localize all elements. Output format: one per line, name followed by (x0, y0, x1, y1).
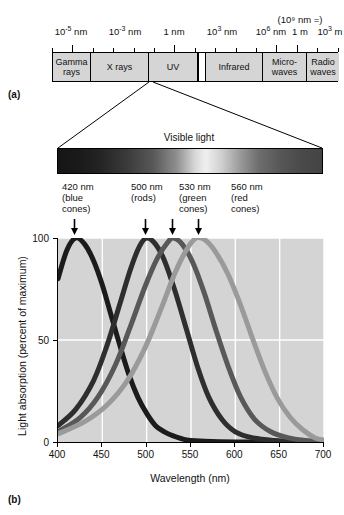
x-tick-mark-600 (234, 443, 235, 447)
x-axis-title: Wavelength (nm) (150, 472, 230, 484)
peak-arrow-green-cones (168, 219, 177, 235)
peak-callout-green-cones-line-3: cones) (179, 203, 211, 214)
peak-callout-blue-cones-line-2: (blue (62, 192, 94, 203)
peak-arrow-rods (141, 219, 150, 235)
peak-callout-red-cones-line-2: (red (231, 192, 263, 203)
peak-callout-green-cones-line-2: (green (179, 192, 211, 203)
x-tick-label-650: 650 (270, 449, 287, 460)
x-tick-label-400: 400 (49, 449, 66, 460)
x-tick-mark-700 (323, 443, 324, 447)
peak-callout-blue-cones-line-3: cones) (62, 203, 94, 214)
peak-callout-rods: 500 nm(rods) (131, 181, 163, 203)
absorption-chart-panel: Visible light 420 nm(bluecones)500 nm(ro… (0, 0, 344, 515)
y-tick-label-100: 100 (21, 233, 49, 244)
x-tick-label-550: 550 (182, 449, 199, 460)
x-tick-mark-450 (101, 443, 102, 447)
absorption-curves-svg (58, 238, 324, 442)
x-tick-label-600: 600 (226, 449, 243, 460)
x-tick-label-700: 700 (315, 449, 332, 460)
peak-callout-green-cones-line-1: 530 nm (179, 181, 211, 192)
peak-callout-red-cones-line-3: cones) (231, 203, 263, 214)
peak-callout-rods-line-2: (rods) (131, 192, 163, 203)
y-axis-title: Light absorption (percent of maximum) (16, 246, 28, 446)
x-tick-label-450: 450 (93, 449, 110, 460)
x-tick-mark-650 (279, 443, 280, 447)
x-tick-mark-550 (190, 443, 191, 447)
panel-b-label: (b) (8, 494, 21, 505)
chart-plot-area (57, 238, 324, 443)
x-tick-mark-400 (57, 443, 58, 447)
peak-callout-blue-cones: 420 nm(bluecones) (62, 181, 94, 214)
peak-callout-blue-cones-line-1: 420 nm (62, 181, 94, 192)
visible-light-caption: Visible light (164, 132, 214, 143)
x-tick-mark-500 (146, 443, 147, 447)
y-tick-mark-100 (53, 238, 57, 239)
y-tick-mark-0 (53, 442, 57, 443)
peak-callout-red-cones: 560 nm(redcones) (231, 181, 263, 214)
peak-callout-red-cones-line-1: 560 nm (231, 181, 263, 192)
x-tick-label-500: 500 (137, 449, 154, 460)
y-tick-mark-50 (53, 340, 57, 341)
visible-spectrum-bar (57, 148, 323, 174)
peak-arrow-red-cones (194, 219, 203, 235)
peak-callout-green-cones: 530 nm(greencones) (179, 181, 211, 214)
peak-callout-rods-line-1: 500 nm (131, 181, 163, 192)
peak-arrow-blue-cones (70, 219, 79, 235)
